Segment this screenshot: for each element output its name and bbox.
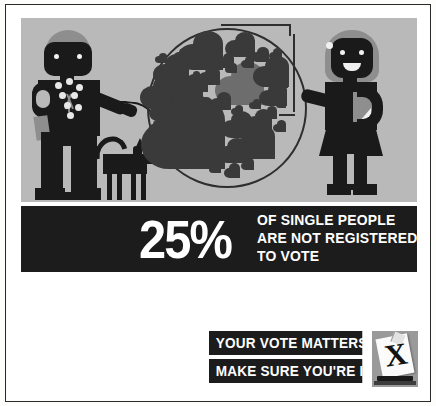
heart-shape [217, 98, 231, 110]
heart-shape [153, 124, 162, 132]
heart-shape [257, 52, 269, 62]
heart-shape [159, 56, 167, 63]
woman-earring [326, 42, 333, 49]
heart-shape [175, 94, 184, 102]
poster-root: 25% OF SINGLE PEOPLE ARE NOT REGISTERED … [0, 0, 436, 406]
heart-shape [277, 124, 286, 132]
man-eye-left [54, 54, 59, 59]
ballot-x-mark: X [381, 336, 412, 374]
heart-shape [229, 66, 237, 73]
statistic-banner: 25% OF SINGLE PEOPLE ARE NOT REGISTERED … [21, 206, 417, 272]
statistic-caption-line-3: TO VOTE [257, 248, 417, 266]
illustration-panel [21, 18, 417, 202]
heart-shape [249, 136, 275, 159]
heart-shape [245, 162, 254, 170]
heart-shape-large [169, 120, 225, 169]
bouquet-of-flowers-icon [51, 78, 85, 122]
woman-figure [309, 30, 407, 202]
woman-foot-right [353, 184, 377, 195]
woman-eye-left [340, 50, 345, 55]
statistic-caption: OF SINGLE PEOPLE ARE NOT REGISTERED TO V… [257, 212, 417, 265]
woman-foot-left [327, 184, 351, 195]
man-head [44, 42, 92, 76]
woman-leg-gap [347, 154, 354, 184]
heart-shape [235, 108, 243, 115]
heart-shape [253, 102, 261, 109]
heart-shape [273, 52, 282, 60]
man-foot-left [35, 188, 65, 200]
man-eye-right [77, 54, 82, 59]
woman-skirt [319, 122, 383, 156]
man-leg-gap [63, 146, 71, 192]
slogan-bar-make-sure-youre-in: MAKE SURE YOU'RE IN [209, 359, 362, 383]
heart-shape [213, 166, 221, 173]
statistic-caption-line-2: ARE NOT REGISTERED [257, 230, 417, 248]
campaign-logo-lockup: YOUR VOTE MATTERS MAKE SURE YOU'RE IN X [209, 331, 419, 391]
dog-leg [131, 172, 136, 200]
heart-shape [201, 102, 212, 112]
heart-shape [229, 168, 240, 178]
poster-inner: 25% OF SINGLE PEOPLE ARE NOT REGISTERED … [7, 6, 429, 400]
heart-shape [157, 106, 174, 121]
woman-head [331, 38, 373, 78]
heart-shape [183, 108, 193, 117]
man-arm-gap [36, 90, 50, 108]
dog-leg [117, 172, 122, 200]
dog-leg [107, 172, 112, 200]
ballot-box-base [374, 381, 416, 385]
statistic-caption-line-1: OF SINGLE PEOPLE [257, 212, 417, 230]
heart-shape [199, 84, 208, 92]
statistic-percentage: 25% [139, 213, 231, 266]
heart-circle-diagram [139, 24, 315, 200]
slogan-bar-your-vote-matters: YOUR VOTE MATTERS [209, 331, 362, 355]
heart-shape [245, 60, 254, 68]
heart-shape [281, 82, 288, 88]
campaign-slogan-bars: YOUR VOTE MATTERS MAKE SURE YOU'RE IN [209, 331, 367, 383]
heart-shape [241, 152, 248, 158]
heart-shape [267, 110, 277, 119]
ballot-paper-x-icon: X [372, 331, 418, 387]
heart-shape [279, 102, 286, 108]
heart-shape [209, 64, 216, 70]
heart-shape [193, 74, 200, 80]
heart-shape [179, 52, 189, 61]
woman-eye-right [359, 50, 364, 55]
